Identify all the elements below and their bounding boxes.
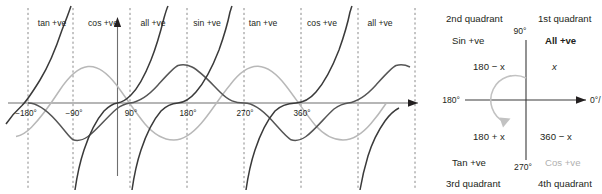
quadrant-2-title: 2nd quadrant <box>446 13 503 24</box>
x-tick-label-180: 180° <box>180 109 197 118</box>
quadrant-3-sign: Tan +ve <box>452 157 486 168</box>
quadrant-3-title: 3rd quadrant <box>446 178 501 189</box>
tan-branch-90-to-270 <box>132 6 232 190</box>
quadrant-2-expression: 180 − x <box>473 61 505 72</box>
x-tick-label-360: 360° <box>294 109 311 118</box>
x-tick-label-270: 270° <box>237 109 254 118</box>
quadrant-4-sign: Cos +ve <box>545 157 580 168</box>
region-label-2: all +ve <box>140 18 165 28</box>
region-label-1: cos +ve <box>88 18 118 28</box>
quadrant-angle-left: 180° <box>442 95 460 105</box>
rotation-arc <box>491 76 526 122</box>
gridlines <box>28 8 415 188</box>
x-tick-label-90: 90° <box>125 109 137 118</box>
x-tick-label--180: −180° <box>15 109 37 118</box>
quadrant-2-sign: Sin +ve <box>452 35 484 46</box>
region-label-6: all +ve <box>367 18 392 28</box>
region-label-0: tan +ve <box>38 18 67 28</box>
quadrant-right-arrowhead <box>576 96 586 103</box>
region-labels: tan +ve cos +ve all +ve sin +ve tan +ve … <box>38 18 393 28</box>
tan-branch-450-onward <box>360 108 399 190</box>
quadrant-angle-top: 90° <box>514 26 527 36</box>
quadrant-1-sign: All +ve <box>545 35 576 46</box>
trig-graph-and-quadrant-figure: tan +ve cos +ve all +ve sin +ve tan +ve … <box>0 0 602 194</box>
quadrant-angle-right: 0°/ <box>590 95 601 105</box>
quadrant-4-title: 4th quadrant <box>538 178 592 189</box>
region-label-4: tan +ve <box>249 18 278 28</box>
quadrant-diagram: 90° 180° 270° 0°/ 1st quadrant All +ve x… <box>442 13 601 189</box>
tan-branch-270-to-450 <box>246 6 352 190</box>
quadrant-4-expression: 360 − x <box>540 131 572 142</box>
x-axis-arrowhead <box>408 99 418 107</box>
quadrant-3-expression: 180 + x <box>473 131 505 142</box>
region-label-3: sin +ve <box>193 18 221 28</box>
region-label-5: cos +ve <box>307 18 337 28</box>
x-tick-label--90: −90° <box>65 109 82 118</box>
quadrant-1-expression: x <box>551 61 558 72</box>
trig-graph: tan +ve cos +ve all +ve sin +ve tan +ve … <box>6 6 418 190</box>
tan-curve <box>6 6 399 190</box>
rotation-arc-arrowhead <box>500 118 511 128</box>
quadrant-angle-bottom: 270° <box>514 162 532 172</box>
quadrant-1-title: 1st quadrant <box>538 13 592 24</box>
tan-branch--90-to-90 <box>75 6 168 190</box>
